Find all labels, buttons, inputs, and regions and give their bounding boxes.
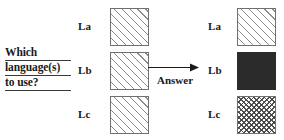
input-box-lb [110,52,149,90]
output-label-lb: Lb [208,64,230,76]
question-line-1: Which [5,46,71,61]
input-label-lb: Lb [78,64,100,76]
diagram-canvas: Which language(s) to use? La Lb Lc Answe… [0,0,284,140]
output-label-lc: Lc [208,108,230,120]
question-line-2: language(s) [5,61,71,76]
question-block: Which language(s) to use? [5,46,71,91]
input-label-lc: Lc [78,108,100,120]
arrow-right-icon [148,62,200,73]
input-box-lc [110,96,149,134]
input-label-la: La [78,20,100,32]
output-label-la: La [208,20,230,32]
output-box-lb [237,52,276,90]
input-box-la [110,8,149,46]
output-box-la [237,8,276,46]
output-box-lc [237,96,276,134]
question-line-3: to use? [5,76,71,91]
arrow-label: Answer [148,74,202,86]
